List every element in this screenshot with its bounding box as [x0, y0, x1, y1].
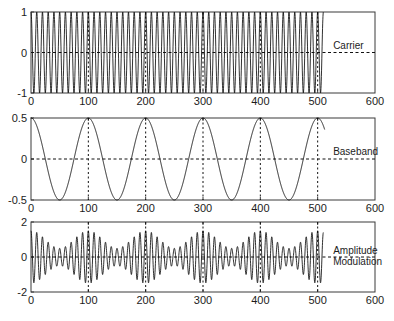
x-tick-label: 100: [79, 202, 97, 214]
x-tick-label: 400: [251, 95, 269, 107]
x-tick-label: 0: [28, 95, 34, 107]
x-tick-label: 300: [194, 95, 212, 107]
plot-panel-amplitude-modulation: 0100200300400500600-202AmplitudeModulati…: [17, 216, 384, 306]
x-tick-label: 200: [136, 294, 154, 306]
y-tick-label: 0: [21, 251, 27, 263]
x-tick-label: 400: [251, 202, 269, 214]
x-tick-label: 200: [136, 202, 154, 214]
x-tick-label: 200: [136, 95, 154, 107]
x-tick-label: 600: [366, 294, 384, 306]
series-annotation-label: Baseband: [333, 146, 378, 157]
series-annotation-label: Amplitude: [333, 245, 378, 256]
x-tick-label: 500: [308, 294, 326, 306]
x-tick-label: 300: [194, 294, 212, 306]
x-tick-label: 600: [366, 202, 384, 214]
y-tick-label: 0.5: [12, 112, 27, 124]
x-tick-label: 0: [28, 202, 34, 214]
plot-panel-carrier: 0100200300400500600-101Carrier: [17, 6, 384, 107]
y-tick-label: 2: [21, 216, 27, 228]
plot-panel-baseband: 0100200300400500600-0.500.5Baseband: [8, 112, 384, 214]
x-tick-label: 600: [366, 95, 384, 107]
x-tick-label: 500: [308, 95, 326, 107]
y-tick-label: -0.5: [8, 194, 27, 206]
y-tick-label: 0: [21, 153, 27, 165]
series-annotation-label: Modulation: [333, 256, 382, 267]
x-tick-label: 0: [28, 294, 34, 306]
series-annotation-label: Carrier: [333, 40, 364, 51]
y-tick-label: -1: [17, 87, 27, 99]
x-tick-label: 100: [79, 294, 97, 306]
x-tick-label: 400: [251, 294, 269, 306]
signal-plots-figure: 0100200300400500600-101Carrier0100200300…: [0, 0, 394, 321]
x-tick-label: 300: [194, 202, 212, 214]
x-tick-label: 500: [308, 202, 326, 214]
y-tick-label: 1: [21, 6, 27, 18]
x-tick-label: 100: [79, 95, 97, 107]
y-tick-label: 0: [21, 47, 27, 59]
y-tick-label: -2: [17, 286, 27, 298]
